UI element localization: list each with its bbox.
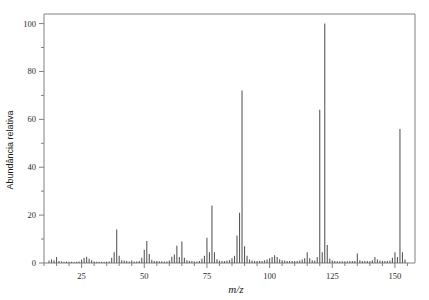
y-tick-label: 0 [32,258,36,268]
x-axis-title: m/z [228,283,244,295]
y-axis-tick-labels: 020406080100 [23,19,36,268]
mass-spectrum-chart: 255075100125150 020406080100 m/z Abundân… [0,0,429,300]
plot-frame [44,14,415,263]
y-tick-label: 80 [28,66,37,76]
x-tick-label: 25 [77,271,86,281]
y-axis-title: Abundância relativa [5,110,15,189]
x-tick-label: 100 [263,271,276,281]
y-tick-label: 100 [23,19,36,29]
x-tick-label: 50 [140,271,149,281]
y-tick-label: 40 [28,162,37,172]
x-tick-label: 75 [203,271,212,281]
x-axis-ticks [44,263,407,268]
x-tick-label: 125 [326,271,339,281]
y-tick-label: 60 [28,114,37,124]
y-tick-label: 20 [28,210,37,220]
x-tick-label: 150 [389,271,402,281]
spectrum-peaks [49,24,405,263]
x-axis-tick-labels: 255075100125150 [77,271,401,281]
mass-spectrum-figure: 255075100125150 020406080100 m/z Abundân… [0,0,429,300]
y-axis-ticks [39,24,44,263]
